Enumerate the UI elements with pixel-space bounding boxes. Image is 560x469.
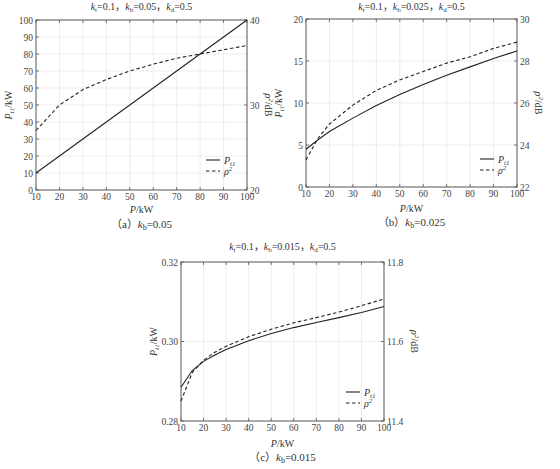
y-axis-left-title: Pt1/kW <box>273 88 286 118</box>
x-axis-ticks: 102030405060708090100 <box>301 19 524 199</box>
x-tick-label: 20 <box>199 423 209 433</box>
y-left-tick-label: 0 <box>28 186 33 196</box>
y-axis-right-title: ρ2/dB <box>533 91 545 115</box>
x-tick-label: 90 <box>219 192 229 202</box>
sub-caption: （a）kb=0.05 <box>111 218 173 232</box>
x-tick-label: 90 <box>489 189 499 199</box>
x-tick-label: 70 <box>172 192 182 202</box>
y-right-tick-label: 11.4 <box>387 417 404 427</box>
y-left-tick-label: 0 <box>298 183 303 193</box>
y-left-tick-label: 70 <box>24 67 34 77</box>
y-axis-left-title: Pt1/kW <box>148 327 161 357</box>
series-rho2-line <box>306 42 517 160</box>
x-tick-label: 30 <box>221 423 231 433</box>
series-pt1-line <box>181 307 384 388</box>
x-tick-label: 80 <box>195 192 205 202</box>
legend: Pt1ρ2 <box>480 154 510 177</box>
x-tick-label: 70 <box>442 189 452 199</box>
y-left-tick-label: 90 <box>24 33 34 43</box>
x-axis-title: P/kW <box>270 438 295 449</box>
grid <box>36 20 247 190</box>
y-left-tick-label: 15 <box>294 57 304 67</box>
y-left-tick-label: 10 <box>294 99 304 109</box>
y-right-tick-label: 30 <box>520 15 530 25</box>
y-right-tick-label: 30 <box>250 101 260 111</box>
chart-b: 102030405060708090100051015202224262830k… <box>273 1 545 230</box>
y-left-tick-label: 60 <box>24 84 34 94</box>
x-tick-label: 20 <box>55 192 65 202</box>
x-tick-label: 40 <box>244 423 254 433</box>
x-tick-label: 90 <box>357 423 367 433</box>
legend: Pt1ρ2 <box>206 155 236 178</box>
y-axis-left-title: Pt1/kW <box>3 90 16 120</box>
y-right-tick-label: 22 <box>520 183 530 193</box>
y-left-tick-label: 100 <box>19 16 34 26</box>
y-left-tick-label: 0.30 <box>161 337 178 347</box>
x-tick-label: 50 <box>125 192 135 202</box>
series-pt1-line <box>36 20 247 173</box>
chart-c: 1020304050607080901000.280.300.3211.411.… <box>148 241 421 465</box>
grid <box>181 262 384 421</box>
figure: 1020304050607080901000102030405060708090… <box>0 0 560 469</box>
y-left-tick-label: 20 <box>294 15 304 25</box>
y-left-tick-label: 5 <box>298 141 303 151</box>
y-left-tick-label: 20 <box>24 152 34 162</box>
x-tick-label: 40 <box>102 192 112 202</box>
y-right-tick-label: 20 <box>250 186 260 196</box>
series-pt1-line <box>306 51 517 149</box>
x-tick-label: 30 <box>78 192 88 202</box>
chart-title: kt=0.1，kb=0.025，kd=0.5 <box>358 1 465 14</box>
x-axis-ticks: 102030405060708090100 <box>31 20 254 202</box>
x-tick-label: 80 <box>465 189 475 199</box>
x-tick-label: 70 <box>312 423 322 433</box>
x-tick-label: 50 <box>395 189 405 199</box>
y-left-tick-label: 40 <box>24 118 34 128</box>
y-right-tick-label: 11.6 <box>387 337 404 347</box>
legend: Pt1ρ2 <box>346 387 376 410</box>
y-right-tick-label: 40 <box>250 16 260 26</box>
y-right-tick-label: 24 <box>520 141 530 151</box>
chart-title: kt=0.1，kb=0.015，kd=0.5 <box>229 241 336 254</box>
x-tick-label: 60 <box>418 189 428 199</box>
legend-label-rho2: ρ2 <box>497 164 507 176</box>
y-left-tick-label: 0.28 <box>161 417 178 427</box>
x-tick-label: 20 <box>325 189 335 199</box>
y-axis-left-ticks: 05101520 <box>294 15 310 193</box>
y-axis-right-title: ρ2/dB <box>409 329 421 353</box>
y-left-tick-label: 80 <box>24 50 34 60</box>
y-axis-right-ticks: 203040 <box>244 16 260 196</box>
y-right-tick-label: 26 <box>520 99 530 109</box>
chart-title: kt=0.1，kb=0.05，kd=0.5 <box>91 1 193 14</box>
sub-caption: （c）kb=0.015 <box>249 451 316 465</box>
grid <box>306 19 517 187</box>
y-left-tick-label: 0.32 <box>161 258 178 268</box>
y-left-tick-label: 50 <box>24 101 34 111</box>
x-tick-label: 30 <box>348 189 358 199</box>
y-right-tick-label: 28 <box>520 57 530 67</box>
x-axis-ticks: 102030405060708090100 <box>176 262 391 433</box>
legend-label-rho2: ρ2 <box>363 397 373 409</box>
sub-caption: （b）kb=0.025 <box>378 216 446 230</box>
x-tick-label: 40 <box>372 189 382 199</box>
y-axis-right-ticks: 2224262830 <box>514 15 530 193</box>
x-tick-label: 50 <box>266 423 276 433</box>
x-tick-label: 80 <box>334 423 344 433</box>
x-tick-label: 60 <box>289 423 299 433</box>
x-axis-title: P/kW <box>399 203 424 214</box>
x-axis-title: P/kW <box>129 204 154 215</box>
chart-a: 1020304050607080901000102030405060708090… <box>3 1 275 232</box>
y-right-tick-label: 11.8 <box>387 258 404 268</box>
y-left-tick-label: 10 <box>24 169 34 179</box>
legend-label-rho2: ρ2 <box>223 165 233 177</box>
y-left-tick-label: 30 <box>24 135 34 145</box>
x-tick-label: 60 <box>148 192 158 202</box>
